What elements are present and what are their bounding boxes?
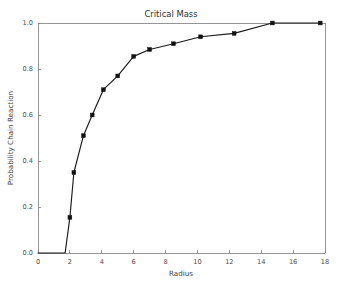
x-tick-label: 12: [225, 258, 233, 266]
data-point-marker: [199, 35, 203, 39]
x-tick-label: 16: [289, 258, 297, 266]
data-point-marker: [116, 74, 120, 78]
data-point-marker: [82, 134, 86, 138]
data-point-marker: [132, 54, 136, 58]
x-tick-label: 0: [36, 258, 40, 266]
data-point-marker: [68, 215, 72, 219]
x-tick-label: 14: [257, 258, 265, 266]
x-tick-label: 6: [132, 258, 136, 266]
figure-background: [0, 0, 342, 286]
y-tick-label: 0.2: [23, 203, 34, 211]
x-tick-label: 4: [100, 258, 104, 266]
data-point-marker: [90, 113, 94, 117]
data-point-marker: [172, 42, 176, 46]
chart-title: Critical Mass: [144, 9, 197, 19]
x-tick-label: 10: [193, 258, 201, 266]
data-point-marker: [232, 31, 236, 35]
data-point-marker: [270, 21, 274, 25]
data-point-marker: [148, 48, 152, 52]
x-axis-title: Radius: [169, 269, 193, 278]
data-point-marker: [72, 171, 76, 175]
x-tick-label: 2: [68, 258, 72, 266]
data-point-marker: [318, 21, 322, 25]
x-tick-label: 8: [163, 258, 167, 266]
y-tick-label: 0.0: [23, 249, 34, 257]
data-point-marker: [101, 88, 105, 92]
x-tick-label: 18: [321, 258, 329, 266]
y-tick-label: 1.0: [23, 19, 34, 27]
y-tick-label: 0.8: [23, 65, 34, 73]
y-tick-label: 0.4: [23, 157, 34, 165]
critical-mass-line-chart: 024681012141618 0.00.20.40.60.81.0 Criti…: [0, 0, 342, 286]
figure-canvas: 024681012141618 0.00.20.40.60.81.0 Criti…: [0, 0, 342, 286]
y-axis-title: Probability Chain Reaction: [6, 91, 15, 185]
y-tick-label: 0.6: [23, 111, 34, 119]
